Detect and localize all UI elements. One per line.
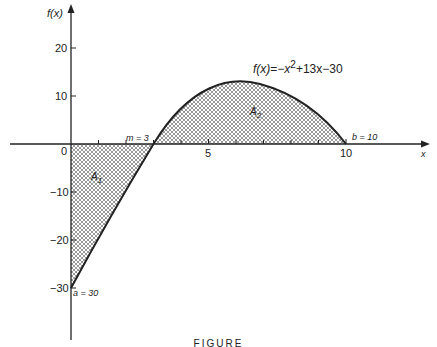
x-tick-label-5: 5: [205, 147, 211, 159]
y-tick-label-neg30: −30: [50, 282, 69, 294]
figure-caption: FIGURE: [0, 338, 437, 347]
x-axis-label: x: [420, 149, 426, 159]
annotation-a: a = 30: [73, 288, 98, 298]
annotation-m: m = 3: [126, 133, 149, 143]
annotation-b: b = 10: [352, 132, 377, 142]
y-tick-label-neg20: −20: [50, 234, 69, 246]
x-axis-arrow-icon: [421, 141, 430, 148]
x-tick-label-10: 10: [340, 147, 352, 159]
function-equation: f(x)=−x2+13x−30: [253, 59, 343, 76]
y-tick-label-10: 10: [55, 90, 67, 102]
chart-figure: f(x) x 20 10 0 −10 −20 −30 5 10 m = 3 b …: [0, 0, 437, 347]
y-axis-label: f(x): [47, 7, 63, 19]
origin-label: 0: [61, 145, 67, 157]
y-tick-label-neg10: −10: [50, 186, 69, 198]
y-axis-arrow-icon: [68, 4, 75, 13]
y-tick-label-20: 20: [55, 42, 67, 54]
